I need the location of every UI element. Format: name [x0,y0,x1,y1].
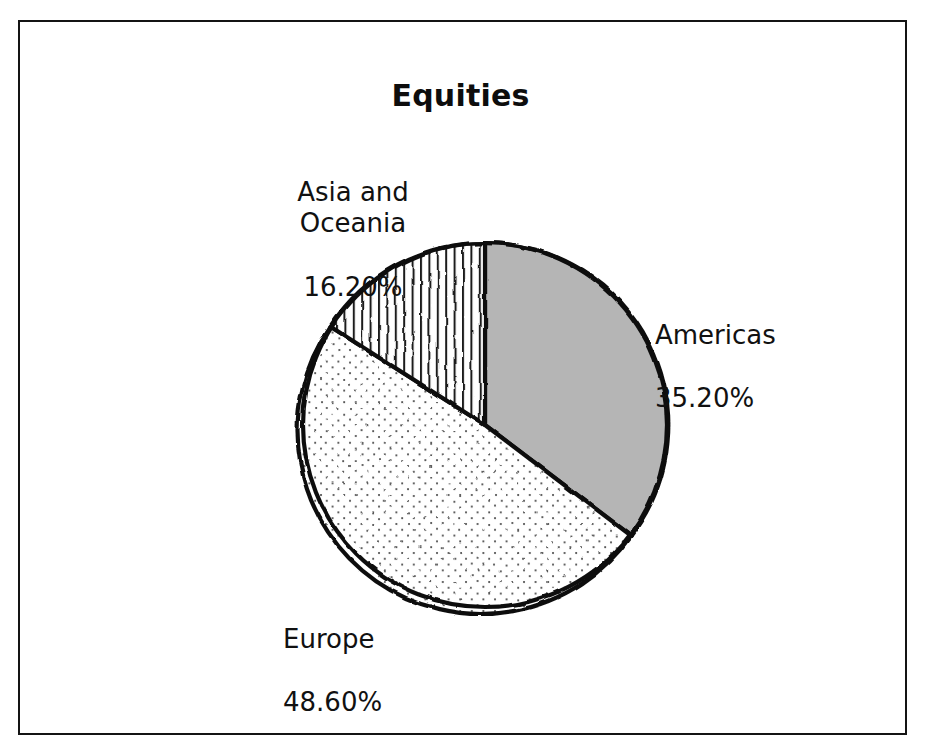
slice-label-europe-value: 48.60% [283,687,533,719]
slice-label-americas-value: 35.20% [655,383,885,415]
slice-label-americas: Americas 35.20% [655,288,885,447]
slice-label-asia-value: 16.20% [258,272,448,304]
slice-label-asia-name: Asia and Oceania [258,177,448,240]
slice-label-europe-name: Europe [283,624,533,656]
slice-label-europe: Europe 48.60% [283,592,533,751]
pie-chart-figure: Equities [0,0,925,755]
slice-label-americas-name: Americas [655,320,885,352]
slice-label-asia-and-oceania: Asia and Oceania 16.20% [258,145,448,335]
